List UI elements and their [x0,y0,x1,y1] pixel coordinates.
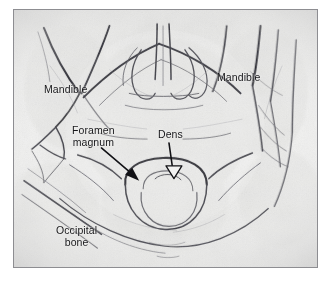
radiograph-image-frame: Mandible Mandible Foramenmagnum Dens Occ… [13,9,318,268]
figure-root: Mandible Mandible Foramenmagnum Dens Occ… [0,0,334,282]
radiograph-image [14,10,317,267]
